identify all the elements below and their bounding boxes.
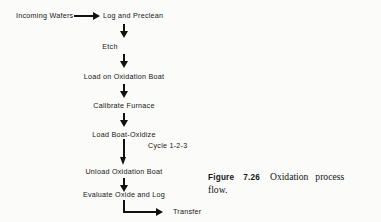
- caption-figure-label: Figure: [208, 173, 234, 182]
- arrow-calibrate-to-oxidize: [118, 113, 130, 127]
- annotation-cycle-label: Cycle 1-2-3: [148, 141, 188, 150]
- node-log-and-preclean: Log and Preclean: [103, 11, 163, 20]
- arrow-log-to-etch: [118, 24, 130, 38]
- figure-canvas: Incoming Wafers Log and Preclean Etch Lo…: [0, 0, 381, 222]
- node-load-on-oxidation-boat: Load on Oxidation Boat: [84, 72, 165, 81]
- node-incoming-wafers: Incoming Wafers: [16, 11, 73, 20]
- caption-text-oxidation: Oxidation: [270, 171, 308, 182]
- node-load-boat-oxidize: Load Boat-Oxidize: [92, 130, 155, 139]
- arrow-load-boat-to-calibrate: [118, 84, 130, 98]
- arrow-oxidize-to-unload: [118, 139, 130, 165]
- caption-figure-number: 7.26: [243, 173, 260, 182]
- node-evaluate-oxide-and-log: Evaluate Oxide and Log: [83, 190, 165, 199]
- node-etch: Etch: [102, 42, 117, 51]
- caption-text-flow: flow.: [208, 184, 372, 196]
- figure-caption: Figure7.26Oxidationprocess flow.: [208, 171, 372, 195]
- arrow-evaluate-to-transfer: [123, 200, 171, 216]
- node-unload-oxidation-boat: Unload Oxidation Boat: [85, 167, 162, 176]
- arrow-etch-to-load-boat: [118, 54, 130, 68]
- caption-text-process: process: [315, 171, 344, 182]
- node-calibrate-furnace: Calibrate Furnace: [93, 101, 154, 110]
- arrow-incoming-to-log: [74, 12, 100, 21]
- node-transfer: Transfer: [173, 207, 202, 216]
